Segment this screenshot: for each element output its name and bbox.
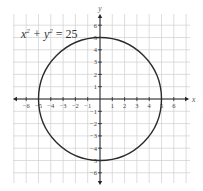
svg-text:1: 1 xyxy=(94,83,97,90)
svg-text:3: 3 xyxy=(94,58,97,65)
svg-text:−3: −3 xyxy=(90,132,97,139)
svg-text:3: 3 xyxy=(135,102,138,109)
svg-text:2: 2 xyxy=(94,71,97,78)
svg-text:−2: −2 xyxy=(90,120,97,127)
svg-text:4: 4 xyxy=(148,102,152,109)
svg-text:2: 2 xyxy=(123,102,126,109)
svg-text:6: 6 xyxy=(172,102,176,109)
svg-text:−1: −1 xyxy=(90,108,97,115)
svg-text:−4: −4 xyxy=(90,145,98,152)
svg-text:−6: −6 xyxy=(90,169,98,176)
x-axis-label: x xyxy=(191,95,196,104)
svg-text:−2: −2 xyxy=(72,102,79,109)
svg-text:1: 1 xyxy=(111,102,114,109)
svg-text:−6: −6 xyxy=(23,102,31,109)
equation-label: x2 + y2 = 25 xyxy=(21,27,78,42)
svg-text:−3: −3 xyxy=(60,102,67,109)
y-axis-label: y xyxy=(97,4,102,13)
svg-text:−4: −4 xyxy=(47,102,55,109)
